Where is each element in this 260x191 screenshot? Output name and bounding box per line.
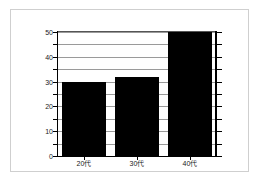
right-axis-tick-mark — [217, 144, 222, 145]
bar — [168, 32, 212, 156]
y-axis-tick-label-wrap: 50 — [25, 29, 53, 36]
y-axis-tick-label-wrap: 20 — [25, 103, 53, 110]
y-axis-tick-label: 20 — [27, 103, 53, 110]
right-axis-tick-mark — [217, 131, 222, 132]
right-axis-tick-mark — [217, 44, 222, 45]
y-axis-tick-label: 40 — [27, 54, 53, 61]
x-axis-tick-label: 20代 — [54, 160, 114, 168]
bar-chart: 01020304050 20代30代40代 — [11, 10, 250, 173]
figure-frame: 01020304050 20代30代40代 — [10, 9, 249, 172]
y-axis-tick-label-wrap: 10 — [25, 128, 53, 135]
right-axis-tick-mark — [217, 82, 222, 83]
y-axis-tick-label: 10 — [27, 128, 53, 135]
y-axis-tick-label-wrap: 30 — [25, 79, 53, 86]
right-axis-tick-mark — [217, 94, 222, 95]
right-axis-tick-mark — [217, 57, 222, 58]
bar — [115, 77, 159, 156]
bars-layer — [58, 32, 216, 156]
y-axis-tick-label: 50 — [27, 29, 53, 36]
y-axis-tick-label: 30 — [27, 79, 53, 86]
right-axis-tick-mark — [217, 32, 222, 33]
right-axis-tick-mark — [217, 119, 222, 120]
y-axis-tick-label-wrap: 0 — [25, 153, 53, 160]
y-axis-tick-label: 0 — [27, 153, 53, 160]
y-axis-tick-label-wrap: 40 — [25, 54, 53, 61]
bar — [62, 82, 106, 156]
right-axis-tick-mark — [217, 106, 222, 107]
right-axis-tick-mark — [217, 69, 222, 70]
x-axis-tick-label: 30代 — [107, 160, 167, 168]
right-axis-tick-mark — [217, 156, 222, 157]
x-axis-tick-label: 40代 — [160, 160, 220, 168]
